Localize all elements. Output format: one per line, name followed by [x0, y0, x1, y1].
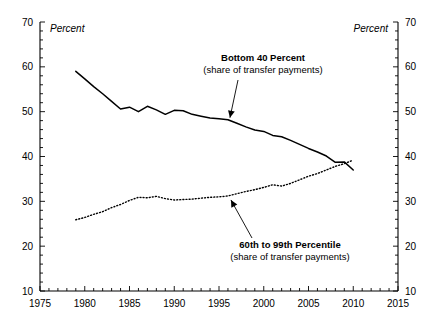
- chart-axes: 1010202030304040505060607070197519801985…: [22, 17, 417, 309]
- x-axis-tick-label: 2010: [342, 298, 365, 309]
- y-axis-tick-label-right: 70: [405, 17, 417, 28]
- y-axis-tick-label-right: 10: [405, 286, 417, 297]
- annotation-subtitle-bottom40: (share of transfer payments): [203, 64, 322, 75]
- x-axis-tick-label: 1980: [74, 298, 97, 309]
- y-axis-title-left: Percent: [50, 23, 86, 34]
- y-axis-tick-label-left: 10: [22, 286, 34, 297]
- series-line-60th-to-99th-percentile: [76, 160, 353, 220]
- y-axis-tick-label-left: 30: [22, 196, 34, 207]
- y-axis-tick-label-left: 40: [22, 151, 34, 162]
- x-axis-tick-label: 2005: [297, 298, 320, 309]
- series-line-bottom-40-percent: [76, 71, 353, 170]
- y-axis-tick-label-left: 60: [22, 61, 34, 72]
- chart-series: [76, 71, 353, 219]
- y-axis-tick-label-right: 60: [405, 61, 417, 72]
- x-axis-tick-label: 1995: [208, 298, 231, 309]
- annotation-title-p60to99: 60th to 99th Percentile: [239, 239, 340, 250]
- y-axis-tick-label-right: 20: [405, 241, 417, 252]
- x-axis-tick-label: 1985: [118, 298, 141, 309]
- y-axis-tick-label-left: 70: [22, 17, 34, 28]
- transfer-payments-line-chart: 1010202030304040505060607070197519801985…: [0, 0, 428, 328]
- y-axis-title-right: Percent: [354, 23, 390, 34]
- annotation-arrowhead: [228, 110, 235, 118]
- y-axis-tick-label-right: 50: [405, 106, 417, 117]
- x-axis-tick-label: 2000: [253, 298, 276, 309]
- annotation-subtitle-p60to99: (share of transfer payments): [230, 251, 349, 262]
- y-axis-tick-label-right: 30: [405, 196, 417, 207]
- x-axis-tick-label: 1975: [29, 298, 52, 309]
- annotation-arrow-bottom40: [228, 80, 238, 118]
- annotation-title-bottom40: Bottom 40 Percent: [221, 52, 306, 63]
- y-axis-tick-label-left: 20: [22, 241, 34, 252]
- y-axis-tick-label-right: 40: [405, 151, 417, 162]
- y-axis-tick-label-left: 50: [22, 106, 34, 117]
- x-axis-tick-label: 2015: [387, 298, 410, 309]
- annotation-arrow-p60to99: [231, 200, 252, 238]
- chart-container: 1010202030304040505060607070197519801985…: [0, 0, 428, 328]
- x-axis-tick-label: 1990: [163, 298, 186, 309]
